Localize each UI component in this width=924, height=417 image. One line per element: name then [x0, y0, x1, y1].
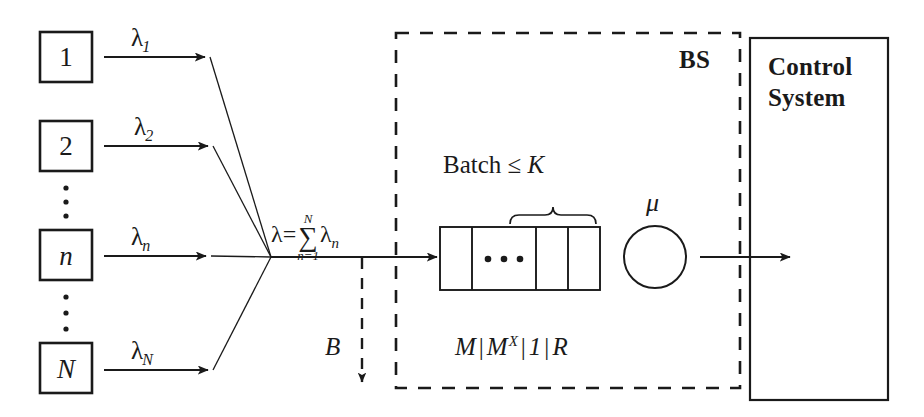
lambda-subscript-1: 1 [142, 38, 150, 55]
kendall-separator-2: | [519, 333, 529, 360]
control-system-label: Control System [768, 52, 852, 113]
source-label-1: 1 [40, 44, 92, 71]
kendall-separator-1: | [477, 333, 487, 360]
aggregate-rate-expression: λ= N ∑ n=1 λn [271, 212, 339, 261]
summation-operator: N ∑ n=1 [297, 213, 319, 262]
batch-text: Batch ≤ [443, 151, 528, 178]
service-rate-label: μ [646, 190, 659, 216]
source-label-n: n [40, 243, 92, 270]
lambda-subscript-N: N [142, 351, 153, 368]
aggregate-term: λ [320, 221, 332, 247]
fanin-line-n [211, 256, 271, 257]
lambda-subscript-n: n [142, 237, 150, 254]
kendall-capacity: R [552, 333, 568, 360]
arrival-rate-label-1: λ1 [131, 25, 150, 55]
arrival-rate-label-N: λN [131, 338, 153, 368]
arrival-rate-label-n: λn [131, 224, 150, 254]
lambda-subscript-2: 2 [145, 127, 153, 144]
fanin-line-N [213, 257, 271, 370]
batch-brace [510, 207, 596, 224]
batch-capacity-symbol: K [528, 151, 545, 178]
aggregate-term-subscript: n [332, 235, 340, 251]
summation-lower-limit: n=1 [297, 250, 319, 262]
queueing-diagram: 1 2 n N λ1 λ2 λn λN λ= N ∑ n=1 λn B BS B… [0, 0, 924, 417]
server-circle [624, 226, 686, 288]
sigma-glyph: ∑ [297, 225, 319, 250]
aggregate-equals: = [283, 221, 297, 247]
kendall-notation: M|MX|1|R [455, 334, 569, 359]
control-system-line-1: Control [768, 52, 852, 83]
bs-label: BS [679, 47, 710, 72]
kendall-servers: 1 [529, 333, 543, 360]
aggregate-lambda: λ [271, 221, 283, 247]
source-label-N: N [40, 356, 92, 383]
kendall-service-superscript: X [509, 333, 519, 349]
source-label-2: 2 [40, 133, 92, 160]
source-ellipsis-upper [63, 185, 68, 218]
batch-capacity-label: Batch ≤ K [443, 152, 544, 177]
blocking-label: B [325, 334, 340, 359]
control-system-line-2: System [768, 83, 852, 114]
arrival-rate-label-2: λ2 [134, 114, 153, 144]
kendall-service: M [487, 333, 509, 360]
source-ellipsis-lower [63, 294, 68, 331]
kendall-separator-3: | [542, 333, 552, 360]
kendall-arrival: M [455, 333, 477, 360]
